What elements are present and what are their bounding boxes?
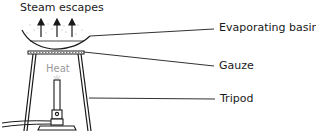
leader-tripod — [89, 98, 215, 99]
label-evaporating-basin: Evaporating basin — [219, 22, 316, 34]
steam-escapes-label: Steam escapes — [20, 2, 104, 14]
gas-tube — [2, 121, 51, 123]
evaporating-basin — [22, 30, 90, 49]
heat-label: Heat — [46, 63, 70, 74]
label-gauze: Gauze — [219, 60, 254, 72]
steam-arrows-icon — [38, 19, 75, 37]
bunsen-burner — [38, 80, 76, 130]
leader-gauze — [84, 52, 214, 66]
leader-basin — [90, 29, 214, 36]
label-tripod: Tripod — [220, 93, 253, 105]
